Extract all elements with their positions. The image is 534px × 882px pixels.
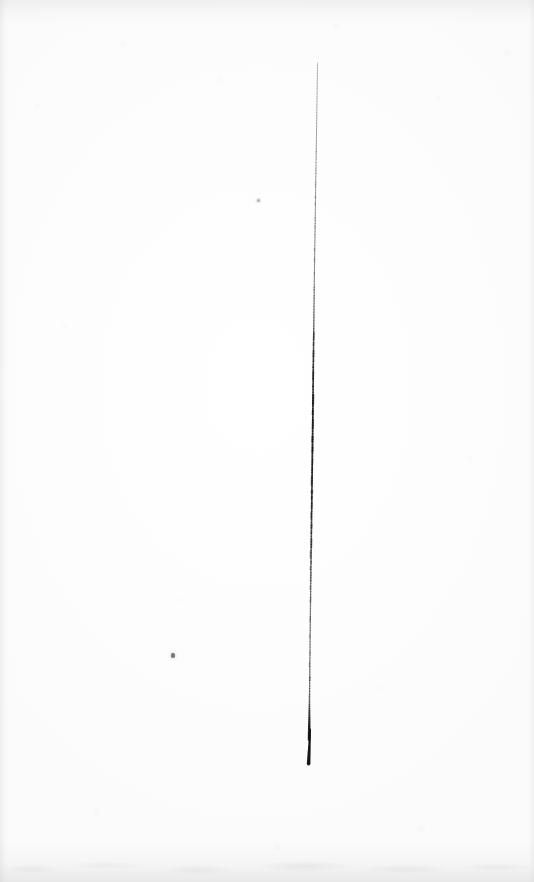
specimen-layer [0, 0, 534, 882]
specimen-line-graphic [0, 0, 534, 882]
stray-speck-lower [171, 653, 175, 658]
scan-canvas: Thin elongated dark specimen on blank of… [0, 0, 534, 882]
stray-speck-upper [257, 199, 260, 202]
